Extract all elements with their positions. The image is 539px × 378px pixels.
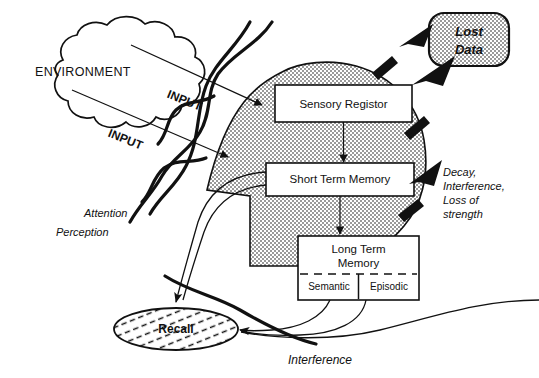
lost-data-box[interactable]: Lost Data bbox=[429, 13, 509, 66]
attention-perception-labels: Attention Perception bbox=[56, 207, 127, 238]
long-term-memory-label-line1: Long Term bbox=[331, 243, 385, 255]
diagram-canvas: ENVIRONMENT INPUT INPUT Attention Percep… bbox=[0, 0, 539, 378]
environment-label: ENVIRONMENT bbox=[35, 65, 131, 79]
short-term-memory-label: Short Term Memory bbox=[290, 173, 391, 185]
sensory-registor-box[interactable]: Sensory Registor bbox=[275, 85, 412, 122]
attention-label: Attention bbox=[83, 207, 127, 219]
loss-arrow-1-tail bbox=[372, 56, 398, 80]
long-term-memory-label-line2: Memory bbox=[338, 257, 380, 269]
loss-note-line3: Loss of bbox=[443, 194, 479, 206]
short-term-memory-box[interactable]: Short Term Memory bbox=[266, 163, 414, 196]
loss-note-line4: strength bbox=[443, 208, 483, 220]
memory-store-boxes: Sensory Registor Short Term Memory Long … bbox=[266, 85, 419, 300]
input-label-lower: INPUT bbox=[106, 126, 145, 153]
interference-label: Interference bbox=[288, 353, 352, 367]
loss-note-line1: Decay, bbox=[443, 166, 476, 178]
ltm-episodic-label: Episodic bbox=[370, 281, 408, 292]
recall-node[interactable]: Recall bbox=[114, 308, 238, 350]
lost-data-label-line1: Lost bbox=[455, 24, 483, 39]
ltm-semantic-label: Semantic bbox=[308, 281, 350, 292]
recall-label: Recall bbox=[158, 322, 193, 336]
sensory-registor-label: Sensory Registor bbox=[299, 98, 387, 110]
loss-note: Decay, Interference, Loss of strength bbox=[443, 166, 505, 220]
memory-model-diagram: ENVIRONMENT INPUT INPUT Attention Percep… bbox=[0, 0, 539, 378]
lost-data-label-line2: Data bbox=[455, 42, 483, 57]
long-term-memory-box[interactable]: Long Term Memory Semantic Episodic bbox=[298, 236, 419, 300]
loss-note-line2: Interference, bbox=[443, 180, 505, 192]
perception-label: Perception bbox=[56, 226, 109, 238]
